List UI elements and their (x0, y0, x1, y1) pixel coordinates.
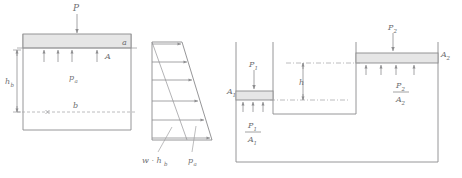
label-force-P1-subscript: 1 (255, 65, 259, 71)
reaction-arrows-small-piston (243, 102, 263, 112)
label-depth-hb: h (5, 77, 10, 86)
leader-line-whb (158, 127, 172, 152)
vessel-inner-step-wall (273, 42, 356, 114)
label-applied-pressure-pa-middle-subscript: a (194, 161, 197, 167)
label-level-b: b (73, 101, 78, 110)
piston-block-left (23, 34, 131, 48)
label-applied-force-P: P (72, 3, 80, 13)
figure-root: P a A p a b h (0, 0, 462, 178)
label-area-A1-subscript: 1 (233, 92, 237, 98)
dimension-depth-hb (13, 50, 21, 112)
label-fraction-P2-numerator-subscript: 2 (401, 86, 406, 92)
pressure-split-diagonal (152, 42, 187, 140)
label-height-h: h (299, 78, 304, 87)
label-fraction-P1-numerator-subscript: 1 (254, 126, 258, 132)
label-fraction-A2-denominator-subscript: 2 (401, 100, 406, 106)
panel-left-group: P a A p a b h (5, 3, 137, 130)
label-hydrostatic-whb-subscript: b (164, 161, 168, 167)
reaction-arrows-left (44, 50, 97, 62)
leader-line-pa-middle (192, 126, 196, 152)
fraction-P1-over-A1: P 1 A 1 (245, 121, 261, 146)
piston-large-A2 (356, 53, 438, 63)
panel-right-group: P 1 A 1 P 1 A 1 P 2 A 2 (226, 23, 451, 162)
piston-small-A1 (236, 91, 273, 100)
label-force-P2-subscript: 2 (393, 28, 398, 34)
label-hydrostatic-whb: w · h (142, 156, 162, 165)
label-depth-hb-subscript: b (11, 82, 15, 88)
label-area-A: A (104, 52, 111, 61)
label-area-A2-subscript: 2 (446, 55, 451, 61)
label-level-a: a (122, 38, 127, 47)
label-pressure-pa: p (69, 73, 74, 82)
label-fraction-A1-denominator-subscript: 1 (254, 140, 258, 146)
label-pressure-pa-subscript: a (75, 78, 78, 84)
panel-middle-group: w · h b p a (142, 42, 212, 167)
label-applied-pressure-pa-middle: p (188, 156, 193, 165)
reaction-arrows-large-piston (366, 65, 414, 75)
fraction-P2-over-A2: P 2 A 2 (393, 81, 409, 106)
figure-canvas: P a A p a b h (0, 0, 462, 178)
